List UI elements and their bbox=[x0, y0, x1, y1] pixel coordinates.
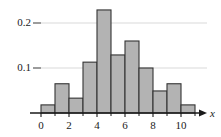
histogram-bar bbox=[153, 91, 167, 113]
histogram-bar bbox=[167, 84, 181, 113]
histogram-bar bbox=[97, 10, 111, 113]
x-tick-label-2: 2 bbox=[59, 120, 79, 131]
histogram-bar bbox=[125, 41, 139, 113]
x-axis-arrow-icon bbox=[199, 109, 207, 116]
histogram-bar bbox=[83, 62, 97, 113]
histogram-bars bbox=[41, 10, 195, 113]
histogram-bar bbox=[111, 55, 125, 113]
x-tick-label-8: 8 bbox=[143, 120, 163, 131]
x-tick-label-4: 4 bbox=[87, 120, 107, 131]
x-axis-label: x bbox=[210, 108, 215, 119]
histogram-bar bbox=[55, 84, 69, 113]
histogram-bar bbox=[41, 105, 55, 113]
y-tick-label-0.1: 0.1 bbox=[0, 62, 31, 73]
y-tick-label-0.2: 0.2 bbox=[0, 17, 31, 28]
y-axis-ticks bbox=[33, 23, 41, 68]
x-tick-label-0: 0 bbox=[31, 120, 51, 131]
histogram-figure: 0.2 0.1 0 2 4 6 8 10 x bbox=[0, 0, 221, 137]
x-tick-label-6: 6 bbox=[115, 120, 135, 131]
histogram-plot-area bbox=[0, 0, 221, 137]
histogram-bar bbox=[139, 68, 153, 113]
histogram-bar bbox=[181, 105, 195, 113]
x-tick-label-10: 10 bbox=[171, 120, 191, 131]
histogram-bar bbox=[69, 98, 83, 113]
